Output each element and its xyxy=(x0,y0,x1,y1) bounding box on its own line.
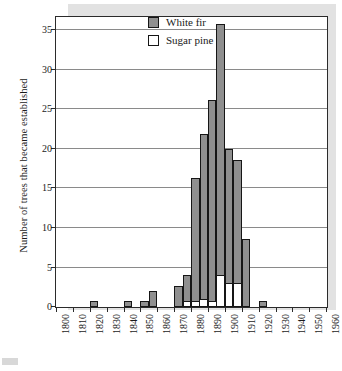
histogram-bar xyxy=(140,301,148,307)
x-tick-label: 1900 xyxy=(229,314,240,334)
x-tick-label: 1890 xyxy=(212,314,223,334)
x-tick-mark xyxy=(292,307,293,312)
histogram-bar-segment-sugar-pine xyxy=(199,299,208,307)
legend-swatch-sugar-pine-icon xyxy=(148,35,159,46)
legend-item-sugar-pine: Sugar pine xyxy=(148,32,213,48)
histogram-bar xyxy=(200,134,208,307)
histogram-bar xyxy=(149,291,157,307)
histogram-bar xyxy=(225,149,233,307)
x-tick-mark xyxy=(107,307,108,312)
x-tick-label: 1950 xyxy=(313,314,324,334)
y-tick-label: 35 xyxy=(42,23,52,34)
histogram-bar xyxy=(216,24,224,307)
x-tick-mark xyxy=(225,307,226,312)
x-tick-label: 1880 xyxy=(195,314,206,334)
x-tick-mark xyxy=(174,307,175,312)
x-tick-mark xyxy=(242,307,243,312)
legend-swatch-white-fir-icon xyxy=(148,17,159,28)
plot-area: 0510152025303518001810182018301840185018… xyxy=(55,16,328,308)
x-tick-mark xyxy=(326,307,327,312)
x-tick-label: 1850 xyxy=(144,314,155,334)
x-tick-label: 1830 xyxy=(111,314,122,334)
x-tick-mark xyxy=(157,307,158,312)
x-tick-label: 1960 xyxy=(330,314,341,334)
legend-item-white-fir: White fir xyxy=(148,14,213,30)
histogram-bar xyxy=(124,301,132,307)
x-tick-mark xyxy=(191,307,192,312)
histogram-bar xyxy=(233,160,241,307)
gridline-y xyxy=(56,69,327,70)
histogram-bar-segment-sugar-pine xyxy=(191,301,200,307)
histogram-bar xyxy=(174,286,182,307)
y-tick-label: 30 xyxy=(42,63,52,74)
y-tick-label: 25 xyxy=(42,103,52,114)
histogram-bar xyxy=(183,275,191,307)
histogram-bar-segment-sugar-pine xyxy=(183,301,192,307)
y-tick-label: 10 xyxy=(42,221,52,232)
x-tick-mark xyxy=(259,307,260,312)
x-tick-mark xyxy=(90,307,91,312)
x-tick-mark xyxy=(56,307,57,312)
plot-inner: 0510152025303518001810182018301840185018… xyxy=(56,17,327,307)
x-tick-label: 1810 xyxy=(77,314,88,334)
y-tick-label: 15 xyxy=(42,182,52,193)
histogram-bar-segment-sugar-pine xyxy=(225,283,234,307)
x-tick-mark xyxy=(208,307,209,312)
histogram-bar xyxy=(191,178,199,307)
chart-legend: White fir Sugar pine xyxy=(148,14,213,50)
histogram-bar xyxy=(208,100,216,307)
legend-label-white-fir: White fir xyxy=(166,16,206,28)
figure-histogram-tree-establishment: Number of trees that became established … xyxy=(0,0,342,371)
x-tick-label: 1920 xyxy=(263,314,274,334)
y-axis-title: Number of trees that became established xyxy=(18,16,29,316)
x-tick-mark xyxy=(124,307,125,312)
x-tick-label: 1930 xyxy=(280,314,291,334)
histogram-bar-segment-sugar-pine xyxy=(208,301,217,307)
x-tick-mark xyxy=(276,307,277,312)
legend-label-sugar-pine: Sugar pine xyxy=(166,34,213,46)
x-tick-label: 1800 xyxy=(60,314,71,334)
histogram-bar-segment-sugar-pine xyxy=(233,283,242,307)
x-tick-label: 1910 xyxy=(246,314,257,334)
y-tick-label: 20 xyxy=(42,142,52,153)
gridline-y xyxy=(56,148,327,149)
histogram-bar xyxy=(259,301,267,307)
y-tick-label: 5 xyxy=(47,261,52,272)
x-tick-label: 1840 xyxy=(128,314,139,334)
histogram-bar-segment-sugar-pine xyxy=(216,275,225,307)
y-tick-label: 0 xyxy=(47,301,52,312)
x-tick-mark xyxy=(140,307,141,312)
x-tick-mark xyxy=(309,307,310,312)
x-tick-label: 1820 xyxy=(94,314,105,334)
x-tick-label: 1940 xyxy=(296,314,307,334)
scan-artifact xyxy=(2,358,18,365)
x-tick-label: 1870 xyxy=(178,314,189,334)
x-tick-label: 1860 xyxy=(161,314,172,334)
histogram-bar xyxy=(242,239,250,307)
gridline-y xyxy=(56,108,327,109)
histogram-bar xyxy=(90,301,98,307)
x-tick-mark xyxy=(73,307,74,312)
